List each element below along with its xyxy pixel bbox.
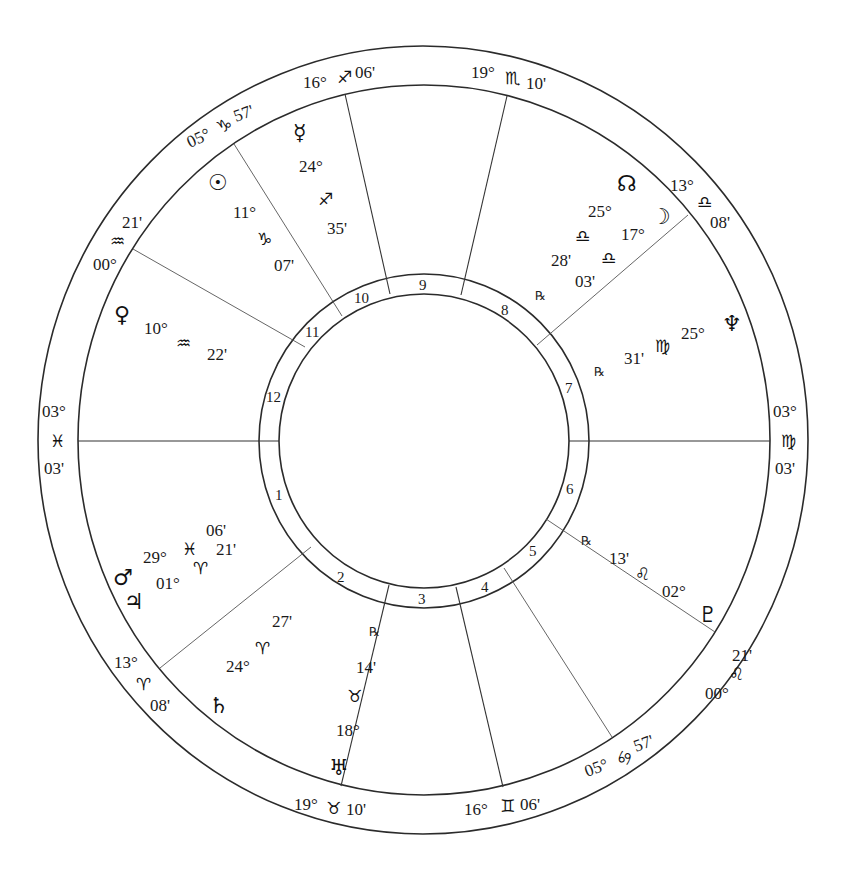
svg-text:♎: ♎ — [575, 226, 590, 246]
cusp-label-2: 13° ♈ 08' — [114, 653, 170, 715]
house-number-ring-inner — [279, 294, 569, 588]
svg-text:♎: ♎ — [697, 192, 712, 212]
svg-text:17°: 17° — [621, 225, 645, 244]
house-number: 11 — [305, 324, 319, 340]
svg-text:08': 08' — [710, 213, 730, 232]
svg-text:21': 21' — [122, 213, 142, 232]
svg-text:♓: ♓ — [182, 539, 197, 559]
svg-text:♈: ♈ — [255, 638, 270, 658]
svg-text:♑: ♑ — [213, 113, 235, 138]
cusp-line-mc — [345, 94, 390, 294]
house-number: 3 — [418, 591, 426, 607]
cusp-label-4: 16° ♊ 06' — [464, 795, 540, 819]
svg-text:16°: 16° — [303, 73, 327, 92]
svg-text:♌: ♌ — [729, 664, 744, 684]
svg-text:♑: ♑ — [257, 229, 272, 249]
planet-mercury: ☿ 24° ♐ 35' — [293, 120, 347, 238]
svg-text:♍: ♍ — [781, 431, 796, 451]
svg-text:♊: ♊ — [500, 796, 515, 816]
svg-text:16°: 16° — [464, 800, 488, 819]
mars-icon: ♂ — [113, 565, 133, 590]
retrograde-icon: ℞ — [581, 534, 592, 548]
retrograde-icon: ℞ — [535, 289, 546, 303]
sun-icon: ☉ — [208, 170, 228, 195]
svg-text:10°: 10° — [144, 319, 168, 338]
cusp-line-ic — [456, 587, 503, 787]
cusp-label-5: 05° ♋ 57' — [582, 731, 656, 781]
svg-text:03°: 03° — [42, 402, 66, 421]
house-number: 4 — [481, 579, 489, 595]
retrograde-icon: ℞ — [594, 365, 605, 379]
neptune-icon: ♆ — [722, 311, 742, 336]
house-number: 2 — [337, 569, 345, 585]
svg-text:14': 14' — [356, 658, 376, 677]
svg-text:♉: ♉ — [347, 686, 362, 706]
svg-text:♉: ♉ — [326, 798, 341, 818]
svg-text:03': 03' — [575, 272, 595, 291]
planet-saturn: ♄ 24° ♈ 27' — [209, 612, 292, 718]
svg-text:♏: ♏ — [505, 68, 520, 88]
svg-text:25°: 25° — [681, 324, 705, 343]
north-node-icon: ☊ — [617, 171, 637, 196]
planet-neptune: ♆ 25° ♍ 31' ℞ — [594, 311, 742, 379]
planet-uranus: ♅ 18° ♉ 14' ℞ — [329, 625, 380, 780]
svg-text:29°: 29° — [143, 548, 167, 567]
planet-pluto: ♇ 02° ♌ 13' ℞ — [581, 534, 718, 627]
svg-text:♎: ♎ — [601, 248, 616, 268]
planet-sun: ☉ 11° ♑ 07' — [208, 170, 294, 275]
svg-text:31': 31' — [624, 349, 644, 368]
planet-venus: ♀ 10° ♒ 22' — [114, 302, 227, 364]
house-number: 12 — [266, 389, 281, 405]
svg-text:57': 57' — [631, 731, 656, 756]
house-number: 7 — [565, 380, 573, 396]
planets: ☉ 11° ♑ 07' ☿ 24° ♐ 35' ♀ 10° ♒ 22' ♂ 29… — [113, 120, 742, 780]
house-number: 1 — [275, 487, 283, 503]
svg-text:06': 06' — [206, 521, 226, 540]
svg-text:♌: ♌ — [635, 564, 650, 584]
svg-text:06': 06' — [520, 795, 540, 814]
svg-text:22': 22' — [207, 345, 227, 364]
svg-text:21': 21' — [732, 646, 752, 665]
svg-text:00°: 00° — [93, 255, 117, 274]
svg-text:07': 07' — [274, 256, 294, 275]
svg-text:♈: ♈ — [136, 674, 151, 694]
cusp-line-9 — [461, 96, 507, 295]
svg-text:19°: 19° — [294, 795, 318, 814]
svg-text:10': 10' — [346, 800, 366, 819]
saturn-icon: ♄ — [209, 693, 229, 718]
inner-zodiac-ring — [78, 85, 770, 795]
jupiter-icon: ♃ — [124, 589, 144, 614]
svg-text:24°: 24° — [299, 157, 323, 176]
moon-icon: ☽ — [651, 204, 671, 229]
svg-text:35': 35' — [327, 219, 347, 238]
svg-text:28': 28' — [551, 251, 571, 270]
svg-text:♒: ♒ — [176, 333, 191, 353]
pluto-icon: ♇ — [698, 602, 718, 627]
svg-text:24°: 24° — [226, 657, 250, 676]
house-number: 10 — [354, 290, 369, 306]
svg-text:21': 21' — [216, 540, 236, 559]
house-cusp-lines — [78, 94, 770, 787]
svg-text:♒: ♒ — [110, 231, 125, 251]
svg-text:03°: 03° — [773, 402, 797, 421]
svg-text:03': 03' — [44, 459, 64, 478]
cusp-label-1: 03° ♓ 03' — [42, 402, 66, 478]
svg-text:13°: 13° — [114, 653, 138, 672]
svg-text:02°: 02° — [662, 582, 686, 601]
cusp-label-10: 16° ♐ 06' — [303, 63, 375, 92]
cusp-line-2 — [160, 547, 311, 668]
mercury-icon: ☿ — [293, 120, 307, 145]
svg-text:♓: ♓ — [50, 431, 65, 451]
retrograde-icon: ℞ — [369, 625, 380, 639]
svg-text:27': 27' — [272, 612, 292, 631]
svg-text:57': 57' — [231, 101, 256, 126]
planet-jupiter: ♃ 01° ♈ 21' — [124, 540, 236, 614]
cusp-line-8 — [537, 215, 688, 345]
svg-text:08': 08' — [150, 696, 170, 715]
cusp-line-11 — [234, 144, 342, 316]
uranus-icon: ♅ — [329, 755, 349, 780]
outer-zodiac-ring — [38, 46, 808, 834]
svg-text:♐: ♐ — [337, 67, 352, 87]
svg-text:11°: 11° — [233, 203, 256, 222]
cusp-label-6: 21' ♌ 00° — [705, 646, 752, 703]
